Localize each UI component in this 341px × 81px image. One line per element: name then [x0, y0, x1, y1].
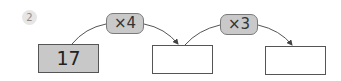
operator-times-4: ×4: [106, 13, 144, 34]
answer-box-1[interactable]: [152, 45, 213, 74]
arc-2-out: [258, 25, 292, 45]
arc-1-in: [72, 24, 106, 44]
answer-box-2[interactable]: [265, 46, 326, 75]
arc-1-out: [144, 24, 178, 44]
problem-number: 2: [22, 10, 37, 25]
arc-2-in: [185, 25, 220, 45]
start-value-box: 17: [38, 44, 99, 73]
operator-times-3: ×3: [220, 14, 258, 35]
